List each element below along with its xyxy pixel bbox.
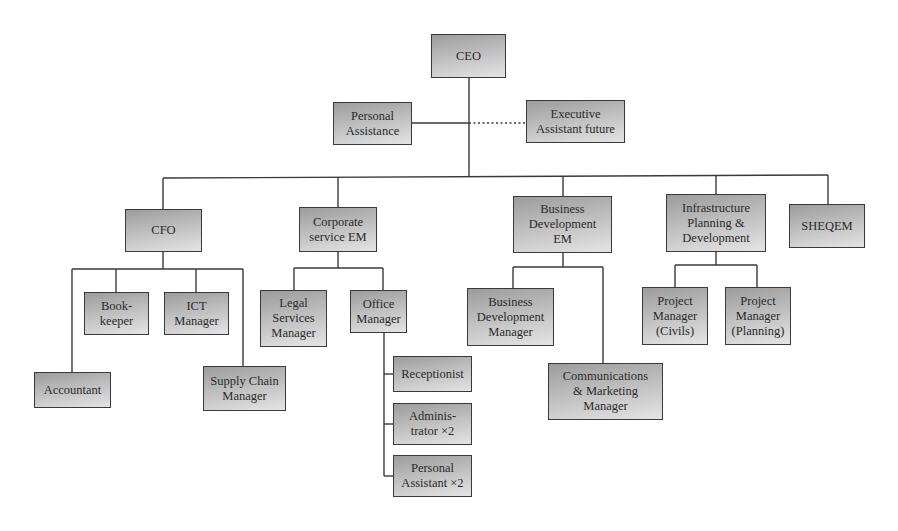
node-label: Supply Chain Manager — [210, 374, 278, 404]
node-label: Book- keeper — [100, 299, 133, 329]
node-label: CFO — [151, 223, 175, 238]
node-label: Communications & Marketing Manager — [563, 369, 648, 414]
org-chart: CEOPersonal AssistanceExecutive Assistan… — [0, 0, 898, 531]
node-corporate-service-em: Corporate service EM — [299, 207, 377, 252]
node-bookkeeper: Book- keeper — [84, 292, 149, 335]
node-label: Legal Services Manager — [271, 296, 315, 341]
node-label: Personal Assistance — [346, 109, 399, 139]
node-receptionist: Receptionist — [393, 356, 472, 392]
node-label: Business Development Manager — [477, 295, 544, 340]
node-infrastructure-planning-development: Infrastructure Planning & Development — [666, 194, 766, 252]
node-sheqem: SHEQEM — [789, 204, 865, 248]
node-label: Adminis- trator ×2 — [409, 409, 456, 439]
node-office-manager: Office Manager — [350, 290, 407, 333]
node-label: Receptionist — [401, 367, 464, 382]
node-label: Corporate service EM — [309, 215, 366, 245]
node-personal-assistance: Personal Assistance — [333, 102, 412, 145]
node-business-development-em: Business Development EM — [513, 196, 612, 253]
node-label: Personal Assistant ×2 — [401, 461, 463, 491]
node-ict-manager: ICT Manager — [164, 292, 229, 335]
node-label: SHEQEM — [801, 219, 852, 234]
node-cfo: CFO — [125, 209, 202, 252]
node-legal-services-manager: Legal Services Manager — [260, 290, 327, 347]
node-label: Project Manager (Civils) — [653, 294, 697, 339]
node-communications-marketing-manager: Communications & Marketing Manager — [548, 363, 663, 420]
node-label: Accountant — [44, 383, 102, 398]
node-label: Project Manager (Planning) — [732, 294, 785, 339]
node-administrator-x2: Adminis- trator ×2 — [393, 403, 472, 445]
node-label: ICT Manager — [174, 299, 218, 329]
node-executive-assistant-future: Executive Assistant future — [526, 100, 625, 143]
node-label: Infrastructure Planning & Development — [682, 201, 750, 246]
node-label: CEO — [456, 49, 481, 64]
node-business-development-manager: Business Development Manager — [467, 288, 554, 346]
node-label: Office Manager — [356, 297, 400, 327]
node-personal-assistant-x2: Personal Assistant ×2 — [393, 455, 472, 497]
node-supply-chain-manager: Supply Chain Manager — [203, 366, 286, 411]
connector-line — [163, 175, 828, 178]
connector-lines — [0, 0, 898, 531]
node-ceo: CEO — [431, 34, 506, 78]
node-accountant: Accountant — [34, 372, 111, 408]
node-project-manager-civils: Project Manager (Civils) — [642, 287, 708, 345]
node-label: Executive Assistant future — [536, 107, 615, 137]
node-project-manager-planning: Project Manager (Planning) — [725, 287, 791, 345]
node-label: Business Development EM — [529, 202, 596, 247]
